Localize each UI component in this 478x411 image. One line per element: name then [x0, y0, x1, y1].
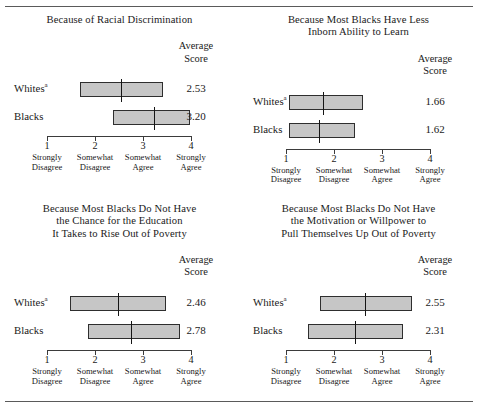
- axis-tick-number: 3: [369, 354, 395, 365]
- panel-title-line: Because Most Blacks Do Not Have: [253, 203, 464, 215]
- panel-title: Because Most Blacks Do Not Havethe Chanc…: [0, 203, 239, 240]
- axis-tick-number: 3: [130, 140, 156, 151]
- axis-tick-number: 2: [82, 140, 108, 151]
- panel-racial-discrimination: Because of Racial DiscriminationAverageS…: [0, 14, 239, 28]
- median-marker: [131, 321, 132, 344]
- row-group-label-text: Whites: [14, 296, 45, 308]
- median-marker: [154, 107, 155, 130]
- axis-tick-number: 1: [273, 354, 299, 365]
- row-group-label-text: Whites: [253, 95, 284, 107]
- footnote-marker: a: [45, 296, 48, 304]
- row-group-label: Whitesa: [14, 82, 48, 94]
- data-row: Whitesa2.46: [0, 292, 239, 316]
- row-group-label: Whitesa: [14, 296, 48, 308]
- average-score-header-line2: Score: [167, 266, 225, 278]
- axis-tick-number: 4: [417, 153, 443, 164]
- panel-title: Because of Racial Discrimination: [0, 14, 239, 26]
- axis-line: [286, 350, 430, 351]
- average-score-header-line1: Average: [167, 40, 225, 52]
- median-marker: [121, 79, 122, 102]
- axis-line: [47, 350, 191, 351]
- panel-title-line: the Motivation or Willpower to: [253, 215, 464, 227]
- footnote-marker: a: [284, 94, 287, 102]
- average-score-header: AverageScore: [406, 254, 464, 278]
- panel-title-line: Because Most Blacks Do Not Have: [14, 203, 225, 215]
- bottom-rule: [5, 401, 473, 402]
- average-score-value: 2.46: [167, 296, 225, 308]
- range-box: [70, 296, 166, 311]
- row-group-label-text: Whites: [14, 82, 45, 94]
- panel-title-line: Pull Themselves Up Out of Poverty: [253, 228, 464, 240]
- average-score-header-line1: Average: [406, 254, 464, 266]
- row-group-label-text: Whites: [253, 296, 284, 308]
- panel-title: Because Most Blacks Have LessInborn Abil…: [239, 14, 478, 39]
- scale-axis: 1StronglyDisagree2SomewhatDisagree3Somew…: [0, 350, 239, 360]
- top-rule: [5, 6, 473, 7]
- row-group-label-text: Blacks: [253, 324, 282, 336]
- panel-title-line: Because of Racial Discrimination: [14, 14, 225, 26]
- average-score-header-line2: Score: [167, 53, 225, 65]
- row-group-label: Whitesa: [253, 296, 287, 308]
- average-score-value: 1.66: [406, 95, 464, 107]
- axis-tick-caption: StronglyAgree: [400, 166, 460, 185]
- panel-title: Because Most Blacks Do Not Havethe Motiv…: [239, 203, 478, 240]
- average-score-value: 3.20: [167, 110, 225, 122]
- range-box: [289, 95, 363, 110]
- data-row: Whitesa2.53: [0, 78, 239, 102]
- axis-tick-caption: StronglyAgree: [161, 153, 221, 172]
- axis-tick-caption-line2: Agree: [161, 377, 221, 386]
- range-box: [80, 82, 163, 97]
- range-box: [320, 296, 412, 311]
- axis-tick-caption-line2: Agree: [400, 377, 460, 386]
- axis-tick-number: 3: [130, 354, 156, 365]
- data-row: Blacks2.31: [239, 320, 478, 344]
- axis-tick-caption: StronglyAgree: [400, 367, 460, 386]
- axis-tick-number: 2: [321, 354, 347, 365]
- axis-tick-caption-line2: Agree: [161, 163, 221, 172]
- axis-tick-number: 4: [178, 354, 204, 365]
- axis-tick-number: 1: [273, 153, 299, 164]
- scale-axis: 1StronglyDisagree2SomewhatDisagree3Somew…: [0, 136, 239, 146]
- average-score-header: AverageScore: [167, 254, 225, 278]
- axis-line: [286, 149, 430, 150]
- data-row: Whitesa2.55: [239, 292, 478, 316]
- row-group-label: Blacks: [14, 324, 43, 336]
- row-group-label-text: Blacks: [14, 110, 43, 122]
- panel-title-line: Inborn Ability to Learn: [253, 26, 464, 38]
- range-box: [308, 324, 403, 339]
- footnote-marker: a: [284, 296, 287, 304]
- data-row: Blacks1.62: [239, 119, 478, 143]
- scale-axis: 1StronglyDisagree2SomewhatDisagree3Somew…: [239, 149, 478, 159]
- panel-motivation-willpower: Because Most Blacks Do Not Havethe Motiv…: [239, 203, 478, 242]
- row-group-label-text: Blacks: [253, 123, 282, 135]
- average-score-header: AverageScore: [167, 40, 225, 64]
- panel-title-line: It Takes to Rise Out of Poverty: [14, 228, 225, 240]
- scale-axis: 1StronglyDisagree2SomewhatDisagree3Somew…: [239, 350, 478, 360]
- panel-title-line: the Chance for the Education: [14, 215, 225, 227]
- axis-tick-number: 3: [369, 153, 395, 164]
- panel-education-chance: Because Most Blacks Do Not Havethe Chanc…: [0, 203, 239, 242]
- axis-tick-number: 4: [178, 140, 204, 151]
- median-marker: [323, 92, 324, 115]
- row-group-label: Blacks: [14, 110, 43, 122]
- average-score-header-line2: Score: [406, 266, 464, 278]
- range-box: [289, 123, 355, 138]
- axis-tick-number: 1: [34, 354, 60, 365]
- median-marker: [118, 293, 119, 316]
- footnote-marker: a: [45, 82, 48, 90]
- axis-tick-caption: StronglyAgree: [161, 367, 221, 386]
- median-marker: [319, 120, 320, 143]
- average-score-value: 2.55: [406, 296, 464, 308]
- data-row: Blacks2.78: [0, 320, 239, 344]
- average-score-value: 2.78: [167, 324, 225, 336]
- axis-line: [47, 136, 191, 137]
- average-score-header-line1: Average: [406, 53, 464, 65]
- row-group-label: Blacks: [253, 123, 282, 135]
- average-score-header: AverageScore: [406, 53, 464, 77]
- average-score-value: 1.62: [406, 123, 464, 135]
- panel-inborn-ability: Because Most Blacks Have LessInborn Abil…: [239, 14, 478, 41]
- axis-tick-number: 1: [34, 140, 60, 151]
- average-score-value: 2.31: [406, 324, 464, 336]
- row-group-label-text: Blacks: [14, 324, 43, 336]
- average-score-value: 2.53: [167, 82, 225, 94]
